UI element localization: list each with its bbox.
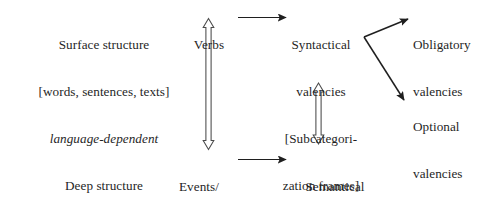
events-states-line-1: Events/ <box>179 179 237 195</box>
node-verbs: Verbs <box>181 6 237 84</box>
valency-diagram: Surface structure [words, sentences, tex… <box>0 0 495 221</box>
node-deep-structure: Deep structure [concepts, meaning repres… <box>16 147 192 221</box>
surface-structure-line-1: Surface structure <box>16 37 192 53</box>
syntactical-valencies-line-1: Syntactical <box>282 37 360 53</box>
node-semantical-valencies: Semantical valencies [Valency frame] <box>283 148 387 221</box>
obligatory-valencies-line-1: Obligatory <box>413 37 489 53</box>
syntactical-to-optional-arrow <box>364 37 404 100</box>
syntactical-to-obligatory-arrow <box>364 19 408 37</box>
verbs-line-1: Verbs <box>181 37 237 53</box>
semantical-valencies-line-1: Semantical <box>283 179 387 195</box>
deep-structure-line-1: Deep structure <box>16 178 192 194</box>
node-optional-valencies: Optional valencies <box>413 88 489 213</box>
surface-structure-line-3: language-dependent <box>16 131 192 147</box>
surface-structure-line-2: [words, sentences, texts] <box>16 84 192 100</box>
optional-valencies-line-2: valencies <box>413 166 489 182</box>
syntactical-valencies-line-2: valencies <box>282 84 360 100</box>
syntactical-valencies-line-3: [Subcategori- <box>282 131 360 147</box>
optional-valencies-line-1: Optional <box>413 119 489 135</box>
node-events-states: Events/ States <box>179 148 237 221</box>
